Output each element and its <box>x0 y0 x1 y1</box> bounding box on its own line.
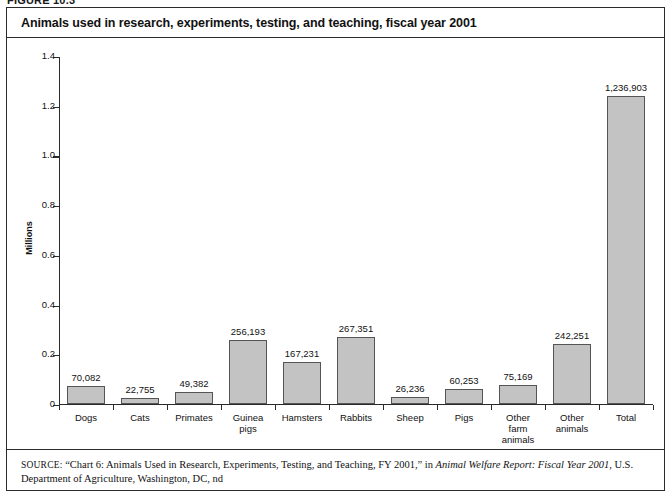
x-axis-category-label: Dogs <box>59 412 113 423</box>
x-axis-category-label: Otheranimals <box>545 412 599 434</box>
bar-item[interactable]: 60,253 <box>445 375 483 404</box>
bar-value-label: 267,351 <box>339 323 373 334</box>
x-tick-mark <box>167 405 168 410</box>
figure-container: Animals used in research, experiments, t… <box>6 7 665 491</box>
y-tick-label: 1.0 <box>42 149 55 160</box>
bar-item[interactable]: 75,169 <box>499 371 537 404</box>
bar-value-label: 26,236 <box>395 383 424 394</box>
x-tick-mark <box>653 405 654 410</box>
x-tick-mark <box>545 405 546 410</box>
x-label-line: Pigs <box>437 412 491 423</box>
bar-value-label: 256,193 <box>231 326 265 337</box>
bar-item[interactable]: 267,351 <box>337 323 375 403</box>
bar-rect[interactable] <box>553 344 591 404</box>
x-axis-category-label: Hamsters <box>275 412 329 423</box>
bar-rect[interactable] <box>499 385 537 404</box>
bar-item[interactable]: 70,082 <box>67 372 105 403</box>
x-label-line: animals <box>491 434 545 445</box>
source-publication-title: Animal Welfare Report: Fiscal Year 2001 <box>436 459 610 470</box>
bar-rect[interactable] <box>229 340 267 404</box>
figure-number: FIGURE 10.3 <box>7 0 75 6</box>
x-tick-mark <box>221 405 222 410</box>
bar-item[interactable]: 167,231 <box>283 348 321 404</box>
bar-item[interactable]: 256,193 <box>229 326 267 404</box>
x-label-line: Total <box>599 412 653 423</box>
y-tick-label: 0.6 <box>42 249 55 260</box>
bar-item[interactable]: 242,251 <box>553 330 591 404</box>
bar-item[interactable]: 22,755 <box>121 384 159 404</box>
x-label-line: Cats <box>113 412 167 423</box>
x-tick-mark <box>113 405 114 410</box>
x-axis-category-label: Pigs <box>437 412 491 423</box>
y-tick-label: 0.8 <box>42 199 55 210</box>
x-label-line: Rabbits <box>329 412 383 423</box>
bar-rect[interactable] <box>445 389 483 404</box>
y-tick-label: 0.2 <box>42 348 55 359</box>
x-tick-mark <box>275 405 276 410</box>
source-divider <box>7 449 664 450</box>
x-tick-mark <box>437 405 438 410</box>
x-axis-line <box>59 404 653 405</box>
source-label: SOURCE: <box>21 460 63 470</box>
x-axis-category-label: Rabbits <box>329 412 383 423</box>
x-label-line: Other <box>545 412 599 423</box>
bar-rect[interactable] <box>175 392 213 404</box>
bar-value-label: 70,082 <box>71 372 100 383</box>
x-label-line: farm <box>491 423 545 434</box>
x-label-line: Dogs <box>59 412 113 423</box>
bar-value-label: 49,382 <box>179 378 208 389</box>
x-axis-category-label: Total <box>599 412 653 423</box>
y-tick-label: 1.4 <box>42 50 55 61</box>
x-label-line: Other <box>491 412 545 423</box>
x-label-line: Hamsters <box>275 412 329 423</box>
bar-value-label: 75,169 <box>503 371 532 382</box>
x-label-line: pigs <box>221 423 275 434</box>
y-axis-label: Millions <box>24 221 34 255</box>
bar-item[interactable]: 26,236 <box>391 383 429 404</box>
x-axis-category-label: Cats <box>113 412 167 423</box>
page-title: Animals used in research, experiments, t… <box>21 16 477 30</box>
x-label-line: Sheep <box>383 412 437 423</box>
y-tick-label: 0 <box>50 398 55 409</box>
bar-item[interactable]: 49,382 <box>175 378 213 404</box>
y-tick-label: 0.4 <box>42 299 55 310</box>
bar-rect[interactable] <box>607 96 645 403</box>
x-axis-category-label: Otherfarmanimals <box>491 412 545 445</box>
bar-item[interactable]: 1,236,903 <box>607 82 645 403</box>
y-tick-label: 1.2 <box>42 100 55 111</box>
bar-value-label: 242,251 <box>555 330 589 341</box>
figure-title-bar: Animals used in research, experiments, t… <box>7 8 664 38</box>
bar-rect[interactable] <box>283 362 321 404</box>
source-text-before: “Chart 6: Animals Used in Research, Expe… <box>63 459 436 470</box>
bar-rect[interactable] <box>391 397 429 404</box>
bar-value-label: 167,231 <box>285 348 319 359</box>
bar-rect[interactable] <box>67 386 105 403</box>
bar-chart: Millions 00.20.40.60.81.01.21.4 70,08222… <box>7 38 666 449</box>
bar-rect[interactable] <box>337 337 375 403</box>
bar-rect[interactable] <box>121 398 159 404</box>
x-label-line: Guinea <box>221 412 275 423</box>
x-axis-category-label: Guineapigs <box>221 412 275 434</box>
bar-value-label: 60,253 <box>449 375 478 386</box>
x-label-line: Primates <box>167 412 221 423</box>
y-axis-line <box>59 57 60 405</box>
plot-area: 00.20.40.60.81.01.21.4 70,08222,75549,38… <box>59 57 653 405</box>
x-tick-mark <box>59 405 60 410</box>
x-label-line: animals <box>545 423 599 434</box>
bar-value-label: 22,755 <box>125 384 154 395</box>
source-note: SOURCE: “Chart 6: Animals Used in Resear… <box>21 458 651 486</box>
bar-value-label: 1,236,903 <box>605 82 647 93</box>
x-axis-category-label: Primates <box>167 412 221 423</box>
x-tick-mark <box>329 405 330 410</box>
x-axis-category-label: Sheep <box>383 412 437 423</box>
x-tick-mark <box>491 405 492 410</box>
x-tick-mark <box>599 405 600 410</box>
x-tick-mark <box>383 405 384 410</box>
